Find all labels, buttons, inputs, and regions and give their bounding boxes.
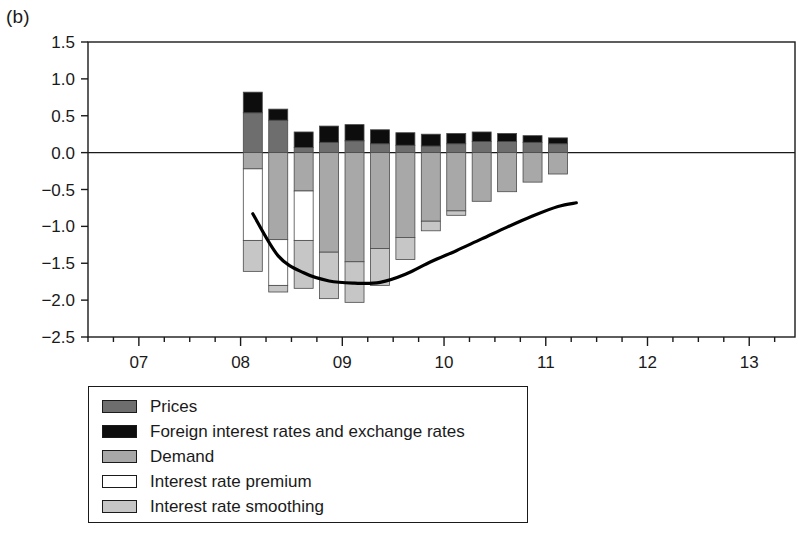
bar-segment-prices [269, 120, 288, 152]
bar-10Q2 [472, 132, 491, 201]
bar-segment-foreign [320, 126, 339, 142]
bar-segment-smoothing [269, 285, 288, 292]
legend-item-demand: Demand [102, 444, 527, 469]
bar-segment-prices [523, 142, 542, 152]
legend-swatch-foreign-icon [102, 425, 137, 438]
x-tick-label: 08 [231, 353, 250, 372]
bar-10Q1 [447, 133, 466, 215]
x-tick-label: 12 [638, 353, 657, 372]
bar-segment-foreign [243, 92, 262, 113]
legend-swatch-premium-icon [102, 475, 137, 488]
x-tick-label: 13 [740, 353, 759, 372]
bar-08Q1 [243, 92, 262, 271]
bar-segment-demand [370, 153, 389, 249]
x-tick-label: 11 [537, 353, 555, 372]
legend-swatch-demand-icon [102, 450, 137, 463]
bar-09Q4 [421, 134, 440, 231]
bar-segment-demand [421, 153, 440, 222]
bar-segment-prices [370, 144, 389, 153]
bar-segment-demand [243, 153, 262, 169]
bar-segment-smoothing [421, 221, 440, 231]
bar-11Q1 [548, 138, 567, 174]
bar-segment-foreign [294, 132, 313, 147]
y-tick-label: −2.0 [41, 291, 75, 310]
legend-item-foreign: Foreign interest rates and exchange rate… [102, 419, 527, 444]
y-tick-label: 0.0 [51, 144, 75, 163]
legend-swatch-smoothing-icon [102, 500, 137, 513]
bar-segment-foreign [269, 109, 288, 120]
bar-10Q4 [523, 136, 542, 182]
bars-group [243, 92, 567, 302]
bar-segment-foreign [472, 132, 491, 142]
x-tick-label: 09 [333, 353, 352, 372]
bar-segment-smoothing [396, 237, 415, 259]
y-tick-label: −1.0 [41, 217, 75, 236]
bar-segment-prices [548, 144, 567, 153]
bar-segment-demand [320, 153, 339, 253]
bar-segment-prices [472, 142, 491, 153]
legend-item-smoothing: Interest rate smoothing [102, 494, 527, 519]
legend-item-prices: Prices [102, 394, 527, 419]
y-tick-label: −2.5 [41, 328, 75, 347]
bar-segment-smoothing [447, 211, 466, 215]
y-tick-label: 1.0 [51, 70, 75, 89]
bar-segment-foreign [447, 133, 466, 143]
bar-08Q2 [269, 109, 288, 292]
bar-segment-smoothing [243, 240, 262, 271]
bar-segment-foreign [345, 125, 364, 141]
y-tick-label: −1.5 [41, 254, 75, 273]
bar-segment-prices [421, 146, 440, 153]
y-tick-label: −0.5 [41, 181, 75, 200]
legend-label: Foreign interest rates and exchange rate… [150, 422, 465, 442]
bar-09Q3 [396, 133, 415, 260]
bar-segment-premium [243, 169, 262, 241]
bar-segment-foreign [523, 136, 542, 143]
bar-segment-prices [243, 113, 262, 153]
bar-segment-demand [447, 153, 466, 211]
bar-segment-foreign [548, 138, 567, 144]
bar-08Q4 [320, 126, 339, 299]
bar-segment-demand [523, 153, 542, 183]
bar-09Q1 [345, 125, 364, 303]
legend-label: Interest rate premium [150, 472, 312, 492]
bar-segment-demand [269, 153, 288, 240]
legend-label: Demand [150, 447, 214, 467]
legend-rows: PricesForeign interest rates and exchang… [102, 394, 527, 519]
bar-segment-smoothing [294, 240, 313, 288]
bar-segment-foreign [370, 130, 389, 144]
bar-segment-prices [320, 142, 339, 152]
bar-segment-smoothing [320, 252, 339, 298]
bar-segment-demand [345, 153, 364, 262]
bar-09Q2 [370, 130, 389, 286]
legend-label: Prices [150, 397, 197, 417]
chart-legend: PricesForeign interest rates and exchang… [88, 386, 528, 523]
chart-panel: (b) 1.51.00.50.0−0.5−1.0−1.5−2.0−2.50708… [0, 0, 802, 537]
bar-segment-prices [396, 145, 415, 152]
bar-10Q3 [498, 133, 517, 191]
legend-swatch-prices-icon [102, 400, 137, 413]
bar-segment-premium [294, 191, 313, 240]
bar-segment-demand [396, 153, 415, 238]
legend-item-premium: Interest rate premium [102, 469, 527, 494]
bar-segment-demand [548, 153, 567, 174]
bar-segment-demand [472, 153, 491, 202]
y-tick-label: 0.5 [51, 107, 75, 126]
bar-segment-foreign [498, 133, 517, 141]
plot-frame [88, 42, 795, 337]
x-tick-label: 10 [435, 353, 454, 372]
bar-segment-foreign [396, 133, 415, 146]
bar-segment-demand [294, 153, 313, 191]
bar-segment-demand [498, 153, 517, 192]
bar-segment-foreign [421, 134, 440, 146]
y-tick-label: 1.5 [51, 33, 75, 52]
bar-segment-prices [345, 141, 364, 153]
x-tick-label: 07 [129, 353, 148, 372]
bar-segment-prices [498, 142, 517, 153]
bar-segment-prices [294, 147, 313, 152]
bar-segment-prices [447, 144, 466, 153]
bar-08Q3 [294, 132, 313, 288]
legend-label: Interest rate smoothing [150, 497, 324, 517]
